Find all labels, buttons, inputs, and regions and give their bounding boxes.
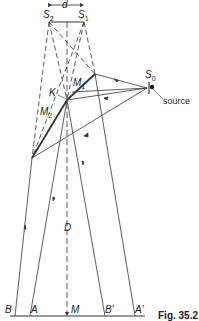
label-b-prime: B′	[105, 305, 114, 315]
label-m1: M1	[73, 78, 85, 90]
label-a: A	[31, 305, 38, 315]
source-dot	[150, 85, 154, 89]
label-k: K	[49, 88, 56, 98]
label-distance-d: D	[64, 223, 71, 233]
figure-caption: Fig. 35.2	[158, 311, 198, 321]
label-d: d	[62, 0, 68, 10]
label-a-prime: A′	[135, 305, 144, 315]
label-s2: S2	[43, 10, 54, 22]
label-s1: S1	[78, 10, 89, 22]
label-s0: S0	[145, 70, 156, 82]
label-b: B	[5, 305, 12, 315]
label-source: source	[163, 97, 190, 106]
label-m2: M2	[40, 107, 52, 119]
label-m: M	[71, 305, 79, 315]
